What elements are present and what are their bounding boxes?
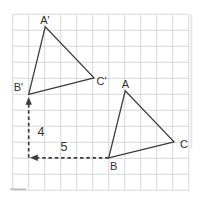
translation-distance-label-4: 4 <box>38 125 45 139</box>
diagram-svg: 45A'B'C'ABC <box>0 0 200 203</box>
translation-diagram: 45A'B'C'ABC <box>0 0 200 203</box>
vertex-label-C: C <box>180 138 188 150</box>
vertex-label-A-prime: A' <box>40 14 49 26</box>
translation-distance-label-5: 5 <box>61 140 68 154</box>
scan-shadow-right <box>190 14 192 148</box>
vertex-label-C-prime: C' <box>96 75 106 87</box>
vertex-label-B: B <box>110 160 117 172</box>
vertex-label-B-prime: B' <box>14 81 23 93</box>
vertex-label-A: A <box>122 78 130 90</box>
